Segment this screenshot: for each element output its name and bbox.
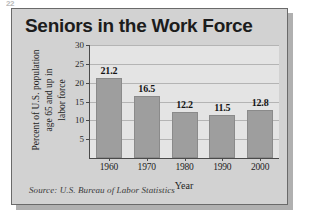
y-tick-label: 30 <box>75 45 84 46</box>
bar <box>172 112 198 158</box>
y-axis-title: Percent of U.S. population age 65 and up… <box>26 41 72 159</box>
bar-value-label: 12.8 <box>238 97 282 108</box>
source-note: Source: U.S. Bureau of Labor Statistics <box>29 185 175 195</box>
y-axis-title-line-3: labor force <box>56 41 69 159</box>
bar <box>134 96 160 158</box>
gridline <box>90 45 279 46</box>
x-tick-label: 2000 <box>238 162 282 172</box>
bar <box>96 78 122 158</box>
y-tick-label: 15 <box>75 102 84 103</box>
y-tick-label: 10 <box>75 120 84 121</box>
figure-panel: Seniors in the Work Force Percent of U.S… <box>11 8 288 205</box>
x-tick-mark <box>147 158 148 161</box>
y-tick-label: 5 <box>80 139 85 140</box>
bar <box>247 110 273 158</box>
y-axis-title-line-1: Percent of U.S. population <box>30 41 43 159</box>
y-tick-label: 20 <box>75 83 84 84</box>
plot-area: 5101520253021.2196016.5197012.2198011.51… <box>89 45 279 159</box>
chart-title: Seniors in the Work Force <box>25 15 253 37</box>
y-tick-label: 25 <box>75 64 84 65</box>
x-tick-mark <box>260 158 261 161</box>
y-axis-title-line-2: age 65 and up in <box>43 41 56 159</box>
x-tick-mark <box>185 158 186 161</box>
x-tick-mark <box>109 158 110 161</box>
y-tick-mark <box>86 83 90 84</box>
bar-value-label: 16.5 <box>125 83 169 94</box>
page-corner-mark: 22 <box>6 0 22 7</box>
y-tick-mark <box>86 120 90 121</box>
bar <box>209 115 235 158</box>
y-tick-mark <box>86 45 90 46</box>
x-tick-mark <box>222 158 223 161</box>
bar-value-label: 21.2 <box>87 65 131 76</box>
y-tick-mark <box>86 102 90 103</box>
y-tick-mark <box>86 139 90 140</box>
